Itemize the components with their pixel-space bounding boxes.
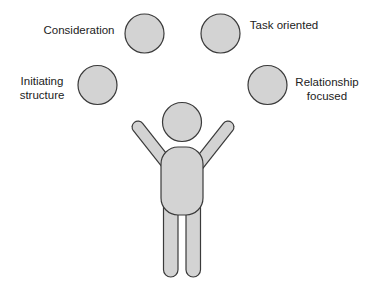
torso: [161, 147, 203, 215]
consideration-circle: [125, 14, 164, 53]
relationship-text: Relationship: [294, 75, 360, 89]
consideration-text: Consideration: [40, 23, 118, 37]
initiating-text: Initiating: [12, 74, 72, 88]
initiating-structure-circle: [78, 66, 117, 105]
initiating-structure-label: Initiating structure: [12, 74, 72, 102]
diagram-graphic: [0, 0, 370, 288]
consideration-label: Consideration: [40, 23, 118, 37]
task-oriented-label: Task oriented: [248, 18, 320, 32]
relationship-focused-circle: [248, 66, 287, 105]
head: [163, 103, 202, 142]
relationship-focused-label: Relationship focused: [294, 75, 360, 103]
task-oriented-text: Task oriented: [248, 18, 320, 32]
person-icon: [138, 103, 228, 278]
leadership-styles-diagram: Consideration Task oriented Initiating s…: [0, 0, 370, 288]
structure-text: structure: [12, 88, 72, 102]
focused-text: focused: [294, 89, 360, 103]
task-oriented-circle: [201, 14, 240, 53]
